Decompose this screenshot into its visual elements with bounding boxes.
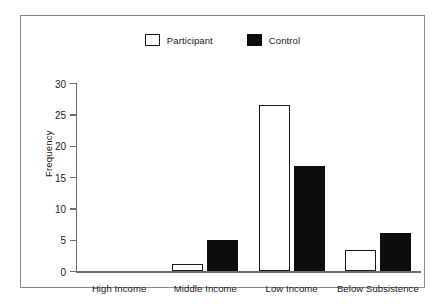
bar-participant-below-subsistence [345,250,376,271]
legend-item-control: Control [247,34,300,46]
legend-item-participant: Participant [145,34,213,46]
x-axis-line [76,271,421,273]
x-category-label: Middle Income [174,283,237,294]
y-tick-label: 30 [55,78,66,89]
bar-control-low-income [294,166,325,271]
y-tick: 10 [70,208,76,209]
y-tick: 5 [70,240,76,241]
y-axis-title: Frequency [43,130,54,177]
bar-participant-low-income [259,105,290,271]
x-category-label: Below Subsistence [337,283,419,294]
y-tick-label: 10 [55,203,66,214]
y-tick-label: 0 [60,266,66,277]
open-square-swatch-icon [145,34,160,46]
plot-area: 051015202530 High IncomeMiddle IncomeLow… [76,83,421,271]
y-tick: 20 [70,146,76,147]
figure-frame: Participant Control Frequency 0510152025… [20,15,425,288]
bar-participant-middle-income [172,264,203,271]
y-axis-line [76,83,77,271]
y-tick-label: 5 [60,235,66,246]
legend-label-participant: Participant [167,35,213,46]
legend-label-control: Control [269,35,300,46]
y-tick: 15 [70,177,76,178]
y-tick-label: 25 [55,109,66,120]
x-category-label: High Income [92,283,146,294]
bar-control-middle-income [207,240,238,271]
y-tick-label: 15 [55,172,66,183]
filled-square-swatch-icon [247,34,262,46]
y-tick: 25 [70,114,76,115]
bar-control-below-subsistence [380,233,411,271]
y-tick: 30 [70,83,76,84]
chart-legend: Participant Control [21,34,424,46]
x-category-label: Low Income [266,283,318,294]
y-tick-label: 20 [55,141,66,152]
y-tick: 0 [70,271,76,272]
